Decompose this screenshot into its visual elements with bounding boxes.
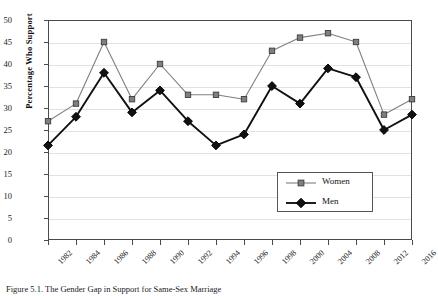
x-axis-tick-label: 1998 (281, 249, 298, 266)
x-axis-tick-label: 1988 (141, 249, 158, 266)
x-axis-tick-mark (356, 240, 357, 245)
data-point (129, 97, 134, 102)
data-point (352, 73, 361, 82)
legend-marker-women (284, 173, 318, 193)
x-axis-tick-label: 1984 (85, 249, 102, 266)
y-axis-tick-label: 40 (0, 60, 12, 69)
data-point (45, 119, 50, 124)
x-axis-tick-label: 1994 (225, 249, 242, 266)
data-point (409, 97, 414, 102)
x-axis-tick-label: 2012 (393, 249, 410, 266)
y-axis-tick-label: 10 (0, 192, 12, 201)
data-point (101, 39, 106, 44)
y-axis-tick-label: 25 (0, 126, 12, 135)
y-axis-tick-label: 15 (0, 170, 12, 179)
data-point (269, 48, 274, 53)
data-point (380, 126, 389, 135)
x-axis-tick-label: 1996 (253, 249, 270, 266)
chart-legend: WomenMen (277, 172, 373, 212)
x-axis-tick-mark (48, 240, 49, 245)
y-axis-tick-label: 50 (0, 16, 12, 25)
x-axis-tick-mark (300, 240, 301, 245)
data-point (353, 39, 358, 44)
x-axis-tick-mark (244, 240, 245, 245)
y-axis-tick-label: 20 (0, 148, 12, 157)
x-axis-tick-mark (188, 240, 189, 245)
x-axis-tick-label: 1982 (57, 249, 74, 266)
x-axis-tick-mark (216, 240, 217, 245)
y-axis-tick-label: 0 (0, 236, 12, 245)
x-axis-tick-mark (76, 240, 77, 245)
legend-item-men: Men (278, 193, 374, 213)
x-axis-tick-mark (104, 240, 105, 245)
x-axis-tick-label: 2000 (309, 249, 326, 266)
x-axis-tick-mark (132, 240, 133, 245)
data-point (408, 110, 417, 119)
x-axis-tick-mark (384, 240, 385, 245)
data-point (240, 130, 249, 139)
x-axis-tick-label: 1992 (197, 249, 214, 266)
x-axis-tick-label: 2004 (337, 249, 354, 266)
data-point (297, 35, 302, 40)
x-axis-tick-label: 1990 (169, 249, 186, 266)
legend-marker-men (284, 193, 318, 213)
y-axis-tick-label: 30 (0, 104, 12, 113)
y-axis-title: Percentage Who Support (24, 0, 34, 146)
y-axis-tick-label: 45 (0, 38, 12, 47)
data-point (157, 61, 162, 66)
x-axis-tick-label: 1986 (113, 249, 130, 266)
series-markers-men (44, 64, 417, 150)
x-axis-tick-mark (272, 240, 273, 245)
legend-label: Men (322, 197, 339, 206)
x-axis-tick-mark (160, 240, 161, 245)
data-point (185, 92, 190, 97)
x-axis-tick-mark (328, 240, 329, 245)
y-axis-tick-label: 5 (0, 214, 12, 223)
x-axis-tick-mark (412, 240, 413, 245)
x-axis-tick-label: 2016 (421, 249, 438, 266)
data-point (381, 112, 386, 117)
data-point (241, 97, 246, 102)
data-point (268, 82, 277, 91)
figure-caption: Figure 5.1. The Gender Gap in Support fo… (6, 284, 434, 294)
legend-item-women: Women (278, 173, 374, 193)
data-point (213, 92, 218, 97)
x-axis-tick-label: 2008 (365, 249, 382, 266)
data-point (325, 31, 330, 36)
y-axis-tick-label: 35 (0, 82, 12, 91)
legend-label: Women (322, 177, 350, 186)
data-point (73, 101, 78, 106)
